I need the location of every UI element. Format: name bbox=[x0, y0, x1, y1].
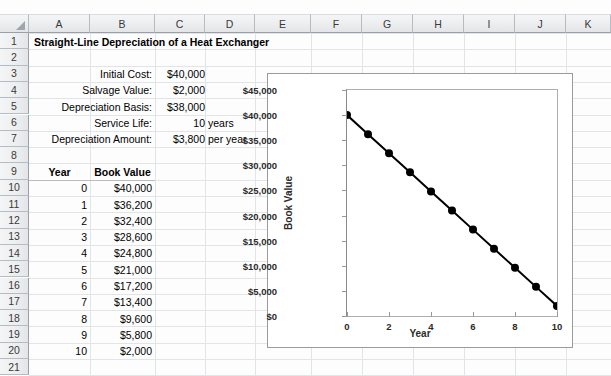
y-axis-label-wrap: Book Value bbox=[282, 89, 302, 317]
table-cell-year-5[interactable]: 5 bbox=[29, 262, 90, 278]
row-header-11[interactable]: 11 bbox=[0, 196, 29, 212]
table-cell-book-value-3[interactable]: $28,600 bbox=[90, 229, 155, 245]
row-header-12[interactable]: 12 bbox=[0, 212, 29, 228]
select-all-corner[interactable] bbox=[0, 14, 29, 33]
row-header-8[interactable]: 8 bbox=[0, 147, 29, 163]
input-label-3[interactable]: Service Life: bbox=[29, 115, 155, 131]
input-value-0[interactable]: $40,000 bbox=[155, 66, 208, 82]
row-header-7[interactable]: 7 bbox=[0, 131, 29, 147]
x-axis-tick-mark-4 bbox=[515, 312, 516, 317]
chart-object[interactable]: Book Value Year $0$5,000$10,000$15,000$2… bbox=[267, 73, 573, 348]
input-label-4[interactable]: Depreciation Amount: bbox=[29, 131, 155, 147]
input-label-1[interactable]: Salvage Value: bbox=[29, 82, 155, 98]
table-cell-year-6[interactable]: 6 bbox=[29, 278, 90, 294]
sheet-title-cell[interactable]: Straight-Line Depreciation of a Heat Exc… bbox=[31, 34, 334, 50]
table-cell-year-3[interactable]: 3 bbox=[29, 229, 90, 245]
y-axis-tick-label-6: $30,000 bbox=[157, 160, 277, 171]
table-header-year[interactable]: Year bbox=[29, 164, 90, 181]
table-header-book-value[interactable]: Book Value bbox=[90, 164, 155, 181]
table-cell-year-4[interactable]: 4 bbox=[29, 245, 90, 261]
row-header-5[interactable]: 5 bbox=[0, 98, 29, 114]
y-axis-tick-label-3: $15,000 bbox=[157, 235, 277, 246]
row-header-14[interactable]: 14 bbox=[0, 245, 29, 261]
row-header-21[interactable]: 21 bbox=[0, 359, 29, 375]
column-header-b[interactable]: B bbox=[90, 14, 155, 33]
row-header-2[interactable]: 2 bbox=[0, 49, 29, 65]
column-header-f[interactable]: F bbox=[311, 14, 362, 33]
row-header-3[interactable]: 3 bbox=[0, 66, 29, 82]
chart-data-point-1 bbox=[364, 130, 372, 138]
chart-data-point-8 bbox=[511, 264, 519, 272]
y-axis-tick-mark-7 bbox=[342, 140, 346, 141]
x-axis-tick-label-2: 4 bbox=[428, 321, 433, 332]
row-header-20[interactable]: 20 bbox=[0, 343, 29, 359]
column-header-c[interactable]: C bbox=[155, 14, 205, 33]
row-header-4[interactable]: 4 bbox=[0, 82, 29, 98]
table-cell-year-8[interactable]: 8 bbox=[29, 311, 90, 327]
column-header-d[interactable]: D bbox=[205, 14, 255, 33]
y-axis-tick-label-9: $45,000 bbox=[157, 85, 277, 96]
table-cell-year-9[interactable]: 9 bbox=[29, 327, 90, 343]
y-axis-tick-mark-3 bbox=[342, 241, 346, 242]
column-header-a[interactable]: A bbox=[29, 14, 90, 33]
chart-data-point-2 bbox=[385, 149, 393, 157]
y-axis-tick-mark-6 bbox=[342, 165, 346, 166]
y-axis-tick-mark-4 bbox=[342, 216, 346, 217]
y-axis-tick-label-5: $25,000 bbox=[157, 185, 277, 196]
table-cell-book-value-6[interactable]: $17,200 bbox=[90, 278, 155, 294]
table-cell-year-1[interactable]: 1 bbox=[29, 197, 90, 213]
row-header-6[interactable]: 6 bbox=[0, 115, 29, 131]
y-axis-tick-label-1: $5,000 bbox=[157, 285, 277, 296]
column-header-i[interactable]: I bbox=[464, 14, 515, 33]
x-axis-tick-label-5: 10 bbox=[552, 321, 563, 332]
input-label-2[interactable]: Depreciation Basis: bbox=[29, 99, 155, 115]
row-header-15[interactable]: 15 bbox=[0, 261, 29, 277]
x-axis-tick-mark-5 bbox=[557, 312, 558, 317]
row-header-16[interactable]: 16 bbox=[0, 278, 29, 294]
table-cell-year-0[interactable]: 0 bbox=[29, 180, 90, 196]
y-axis-tick-label-0: $0 bbox=[157, 311, 277, 322]
table-cell-year-10[interactable]: 10 bbox=[29, 343, 90, 359]
column-header-g[interactable]: G bbox=[362, 14, 413, 33]
table-cell-book-value-2[interactable]: $32,400 bbox=[90, 213, 155, 229]
table-cell-book-value-0[interactable]: $40,000 bbox=[90, 180, 155, 196]
y-axis-title: Book Value bbox=[283, 176, 294, 230]
row-header-9[interactable]: 9 bbox=[0, 163, 29, 179]
x-axis-tick-mark-2 bbox=[431, 312, 432, 317]
x-axis-tick-label-4: 8 bbox=[512, 321, 517, 332]
column-header-e[interactable]: E bbox=[255, 14, 311, 33]
table-cell-book-value-1[interactable]: $36,200 bbox=[90, 197, 155, 213]
select-all-triangle-icon bbox=[16, 21, 25, 30]
column-header-j[interactable]: J bbox=[515, 14, 566, 33]
y-axis-tick-label-4: $20,000 bbox=[157, 210, 277, 221]
table-cell-year-2[interactable]: 2 bbox=[29, 213, 90, 229]
table-cell-book-value-8[interactable]: $9,600 bbox=[90, 311, 155, 327]
y-axis-tick-mark-8 bbox=[342, 115, 346, 116]
x-axis-tick-label-1: 2 bbox=[386, 321, 391, 332]
row-header-17[interactable]: 17 bbox=[0, 294, 29, 310]
x-axis-title: Year bbox=[268, 328, 572, 339]
table-cell-book-value-5[interactable]: $21,000 bbox=[90, 262, 155, 278]
column-header-h[interactable]: H bbox=[413, 14, 464, 33]
table-cell-book-value-10[interactable]: $2,000 bbox=[90, 343, 155, 359]
y-axis-tick-mark-0 bbox=[342, 316, 346, 317]
table-cell-book-value-9[interactable]: $5,800 bbox=[90, 327, 155, 343]
chart-plot-area bbox=[346, 89, 558, 317]
x-axis-tick-mark-0 bbox=[347, 312, 348, 317]
row-header-19[interactable]: 19 bbox=[0, 326, 29, 342]
input-label-0[interactable]: Initial Cost: bbox=[29, 66, 155, 82]
column-header-k[interactable]: K bbox=[566, 14, 611, 33]
table-cell-book-value-4[interactable]: $24,800 bbox=[90, 245, 155, 261]
chart-data-point-6 bbox=[469, 226, 477, 234]
row-header-13[interactable]: 13 bbox=[0, 229, 29, 245]
y-axis-tick-mark-5 bbox=[342, 190, 346, 191]
y-axis-tick-mark-9 bbox=[342, 90, 346, 91]
table-cell-year-7[interactable]: 7 bbox=[29, 294, 90, 310]
row-header-10[interactable]: 10 bbox=[0, 180, 29, 196]
chart-series-book-value bbox=[347, 90, 557, 316]
chart-data-point-4 bbox=[427, 187, 435, 195]
row-header-1[interactable]: 1 bbox=[0, 33, 29, 49]
row-header-18[interactable]: 18 bbox=[0, 310, 29, 326]
chart-data-point-5 bbox=[448, 207, 456, 215]
table-cell-book-value-7[interactable]: $13,400 bbox=[90, 294, 155, 310]
